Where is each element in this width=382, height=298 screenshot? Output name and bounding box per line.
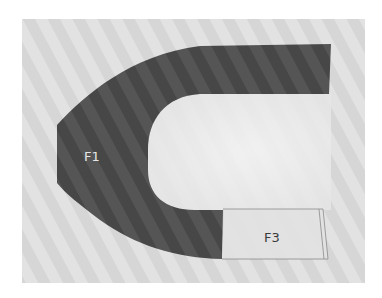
label-f1: F1 [84, 149, 100, 164]
diagram-figure: F1 F3 [0, 0, 382, 298]
inner-cutout-area [148, 94, 331, 210]
label-f3: F3 [264, 230, 280, 245]
